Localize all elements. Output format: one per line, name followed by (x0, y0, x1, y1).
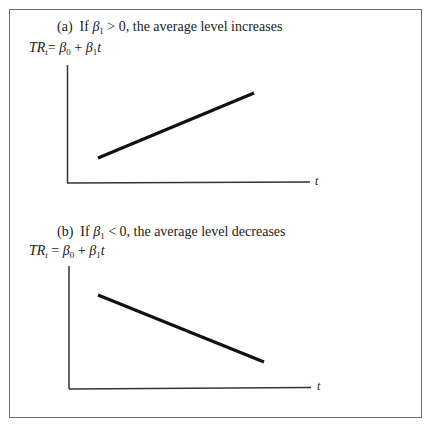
chart-canvas (0, 0, 430, 425)
panel-b-x-label: t (317, 379, 320, 394)
panel-a-x-label: t (315, 174, 318, 189)
panel-a-trend-line (98, 93, 254, 158)
panel-a-x-axis (67, 182, 310, 183)
panel-b-trend-line (98, 295, 264, 362)
panel-b-x-axis (69, 388, 311, 390)
